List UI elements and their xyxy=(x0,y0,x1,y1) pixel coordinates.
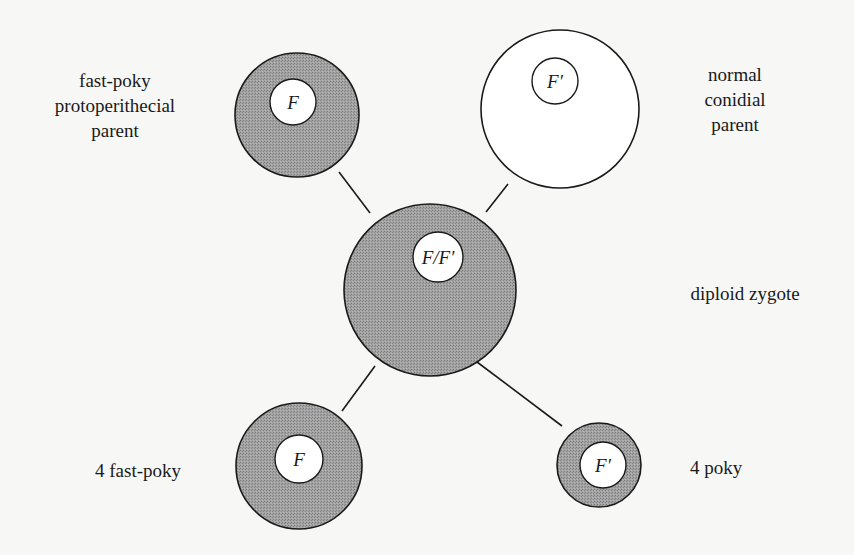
label-line: conidial xyxy=(680,87,790,112)
label-line: 4 poky xyxy=(680,455,752,480)
label-line: fast-poky xyxy=(40,68,190,93)
label-line: parent xyxy=(680,112,790,137)
edge-normal-parent-to-zygote xyxy=(486,184,508,212)
nucleus-label: F xyxy=(286,92,299,113)
cell-fast-poky-parent: F xyxy=(235,53,359,177)
cell-diploid-zygote: F/F′ xyxy=(344,204,516,376)
nucleus-label: F xyxy=(292,449,305,470)
cell-normal-parent: F′ xyxy=(481,30,639,188)
label-line: 4 fast-poky xyxy=(78,458,198,483)
label-line: diploid zygote xyxy=(670,281,820,306)
label-fast-poky-progeny: 4 fast-poky xyxy=(78,458,198,483)
edge-zygote-to-poky-progeny xyxy=(473,359,562,426)
label-fast-poky-parent: fast-poky protoperithecial parent xyxy=(40,68,190,143)
nucleus-label: F/F′ xyxy=(421,247,455,268)
label-normal-parent: normal conidial parent xyxy=(680,62,790,137)
nucleus-label: F′ xyxy=(546,71,564,92)
edge-fast-poky-parent-to-zygote xyxy=(339,172,370,213)
label-line: normal xyxy=(680,62,790,87)
label-line: protoperithecial xyxy=(40,93,190,118)
cell-poky-progeny: F′ xyxy=(557,423,641,507)
label-line: parent xyxy=(40,118,190,143)
label-poky-progeny: 4 poky xyxy=(680,455,752,480)
label-diploid-zygote: diploid zygote xyxy=(670,281,820,306)
nucleus-label: F′ xyxy=(594,455,612,476)
edge-zygote-to-fast-poky-progeny xyxy=(342,366,375,411)
cell-fast-poky-progeny: F xyxy=(236,403,362,529)
